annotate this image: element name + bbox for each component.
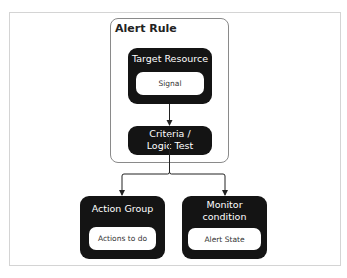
arrowhead-icon <box>167 120 173 126</box>
connector-lines <box>0 0 347 278</box>
arrowhead-icon <box>222 190 228 196</box>
arrowhead-icon <box>119 190 125 196</box>
arrow-criteria-to-monitor <box>170 172 226 195</box>
arrow-criteria-to-action <box>122 136 170 195</box>
